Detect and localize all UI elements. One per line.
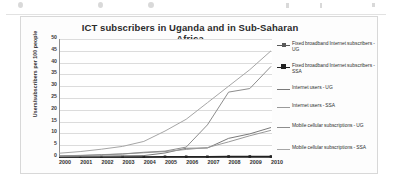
legend-key-fixed-broadband-ug [277, 41, 290, 49]
legend-key-fixed-broadband-ssa [277, 63, 290, 71]
legend-label: Fixed broadband Internet subscribers - U… [292, 41, 377, 53]
x-tick: 2008 [224, 159, 246, 165]
series-2 [59, 128, 271, 157]
chart-container: ICT subscribers in Uganda and in Sub-Sah… [20, 16, 378, 174]
legend-label: Mobile cellular subscriptions - UG [292, 123, 364, 129]
series-lines [59, 39, 272, 158]
x-tick: 2005 [160, 159, 182, 165]
scan-artifacts [0, 0, 397, 16]
y-tick: 40 [35, 59, 57, 64]
x-tick: 2000 [54, 159, 76, 165]
y-tick: 0 [35, 153, 57, 158]
legend-key-mobile-ug [277, 123, 290, 131]
y-tick: 50 [35, 35, 57, 40]
y-tick: 35 [35, 70, 57, 75]
legend-item[interactable]: Fixed broadband Internet subscribers - S… [277, 63, 377, 75]
y-tick: 45 [35, 47, 57, 52]
x-tick: 2003 [118, 159, 140, 165]
legend-label: Internet users - SSA [292, 103, 335, 109]
y-tick: 25 [35, 94, 57, 99]
series-5 [59, 51, 271, 153]
x-tick: 2007 [202, 159, 224, 165]
legend-label: Fixed broadband Internet subscribers - S… [292, 63, 377, 75]
y-tick: 5 [35, 141, 57, 146]
series-4 [59, 66, 271, 155]
legend-item[interactable]: Internet users - SSA [277, 103, 377, 111]
legend-item[interactable]: Mobile cellular subscriptions - SSA [277, 145, 377, 153]
x-tick: 2004 [139, 159, 161, 165]
legend-item[interactable]: Internet users - UG [277, 85, 377, 93]
x-tick: 2001 [75, 159, 97, 165]
legend-item[interactable]: Fixed broadband Internet subscribers - U… [277, 41, 377, 53]
y-tick: 15 [35, 118, 57, 123]
legend-label: Internet users - UG [292, 85, 333, 91]
y-tick: 30 [35, 82, 57, 87]
legend-key-mobile-ssa [277, 145, 290, 153]
x-axis-tick-labels: 2000 2001 2002 2003 2004 2005 2006 2007 … [59, 159, 273, 169]
x-tick: 2006 [181, 159, 203, 165]
x-tick: 2009 [245, 159, 267, 165]
legend-key-internet-users-ssa [277, 103, 290, 111]
y-tick: 10 [35, 129, 57, 134]
chart-legend: Fixed broadband Internet subscribers - U… [277, 41, 377, 165]
legend-key-internet-users-ug [277, 85, 290, 93]
legend-item[interactable]: Mobile cellular subscriptions - UG [277, 123, 377, 131]
y-axis-tick-labels: 50 45 40 35 30 25 20 15 10 5 0 [35, 35, 57, 161]
x-tick: 2002 [96, 159, 118, 165]
y-tick: 20 [35, 106, 57, 111]
series-3 [59, 130, 271, 155]
legend-label: Mobile cellular subscriptions - SSA [292, 145, 366, 151]
